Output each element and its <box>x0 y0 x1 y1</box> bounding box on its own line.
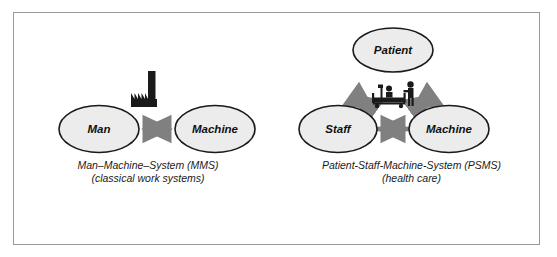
hospital-bed-icon <box>372 81 414 108</box>
node-machine[interactable]: Machine <box>175 106 255 153</box>
caption-mms-line1: Man–Machine–System (MMS) <box>77 159 218 171</box>
node-patient-label: Patient <box>374 44 414 56</box>
caption-psms-line1: Patient-Staff-Machine-System (PSMS) <box>322 159 501 171</box>
node-staff-label: Staff <box>325 123 352 135</box>
node-man[interactable]: Man <box>59 106 139 153</box>
node-staff[interactable]: Staff <box>299 106 377 153</box>
figure-border: Man Machine Man–Machine–System (MMS) (cl… <box>13 12 540 245</box>
node-machine-psms[interactable]: Machine <box>409 106 489 153</box>
node-man-label: Man <box>88 123 111 135</box>
node-machine-label: Machine <box>192 123 239 135</box>
factory-icon <box>131 71 157 107</box>
mms-diagram-svg: Man Machine <box>14 13 282 246</box>
caption-psms: Patient-Staff-Machine-System (PSMS) (hea… <box>282 159 541 185</box>
caption-psms-line2: (health care) <box>282 172 541 185</box>
panel-man-machine-system: Man Machine Man–Machine–System (MMS) (cl… <box>14 13 282 246</box>
caption-mms: Man–Machine–System (MMS) (classical work… <box>14 159 282 185</box>
node-machine-psms-label: Machine <box>426 123 473 135</box>
figure-root: Man Machine Man–Machine–System (MMS) (cl… <box>0 0 557 257</box>
panel-patient-staff-machine-system: Patient Staff Machine Patient-Staff-Mach… <box>282 13 541 246</box>
psms-diagram-svg: Patient Staff Machine <box>282 13 541 246</box>
caption-mms-line2: (classical work systems) <box>14 172 282 185</box>
node-patient[interactable]: Patient <box>353 28 433 72</box>
